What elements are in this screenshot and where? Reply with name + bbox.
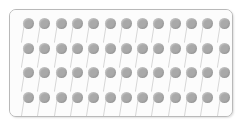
pin[interactable] bbox=[121, 43, 134, 69]
pin-head bbox=[170, 18, 181, 29]
pin-head bbox=[105, 18, 116, 29]
panel-caption: Array of 52 pins arranged in 4 rows of 1… bbox=[0, 0, 1, 1]
pin[interactable] bbox=[153, 67, 166, 93]
pin-head bbox=[105, 92, 116, 103]
pin-head bbox=[88, 18, 99, 29]
pin-head bbox=[170, 43, 181, 54]
pin[interactable] bbox=[186, 43, 199, 69]
pin[interactable] bbox=[121, 92, 134, 118]
pin-head bbox=[170, 92, 181, 103]
pin-head bbox=[137, 67, 148, 78]
pin-head bbox=[105, 67, 116, 78]
pin[interactable] bbox=[56, 67, 69, 93]
pin-head bbox=[121, 43, 132, 54]
pin[interactable] bbox=[88, 18, 101, 44]
pin[interactable] bbox=[23, 92, 36, 118]
pin-head bbox=[202, 67, 213, 78]
pin-head bbox=[56, 43, 67, 54]
pin-head bbox=[186, 18, 197, 29]
pin[interactable] bbox=[72, 92, 85, 118]
pin[interactable] bbox=[153, 18, 166, 44]
pin[interactable] bbox=[170, 67, 183, 93]
pin-head bbox=[23, 67, 34, 78]
pin[interactable] bbox=[219, 92, 232, 118]
pin[interactable] bbox=[153, 43, 166, 69]
pin-head bbox=[105, 43, 116, 54]
pin[interactable] bbox=[137, 18, 150, 44]
pin[interactable] bbox=[105, 18, 118, 44]
pin[interactable] bbox=[219, 18, 232, 44]
pin-head bbox=[186, 67, 197, 78]
pin[interactable] bbox=[186, 67, 199, 93]
pin-head bbox=[39, 18, 50, 29]
pin[interactable] bbox=[56, 18, 69, 44]
pin[interactable] bbox=[56, 43, 69, 69]
pin-head bbox=[186, 92, 197, 103]
pin[interactable] bbox=[186, 18, 199, 44]
pin-head bbox=[137, 92, 148, 103]
pin-head bbox=[153, 67, 164, 78]
pin-head bbox=[56, 92, 67, 103]
pin[interactable] bbox=[219, 43, 232, 69]
pin[interactable] bbox=[39, 18, 52, 44]
pin-head bbox=[219, 67, 230, 78]
pin[interactable] bbox=[88, 92, 101, 118]
pin[interactable] bbox=[39, 43, 52, 69]
pin[interactable] bbox=[137, 92, 150, 118]
pin[interactable] bbox=[23, 67, 36, 93]
pin-head bbox=[121, 92, 132, 103]
pin[interactable] bbox=[121, 18, 134, 44]
pin-head bbox=[72, 67, 83, 78]
screenshot-canvas: Array of 52 pins arranged in 4 rows of 1… bbox=[0, 0, 249, 127]
pin-head bbox=[72, 92, 83, 103]
pin-head bbox=[170, 67, 181, 78]
pin[interactable] bbox=[170, 18, 183, 44]
pin[interactable] bbox=[153, 92, 166, 118]
pin[interactable] bbox=[202, 67, 215, 93]
pin-head bbox=[56, 18, 67, 29]
pin[interactable] bbox=[72, 43, 85, 69]
pin[interactable] bbox=[88, 43, 101, 69]
pin-head bbox=[219, 18, 230, 29]
pin[interactable] bbox=[105, 92, 118, 118]
pin[interactable] bbox=[202, 92, 215, 118]
pin-head bbox=[56, 67, 67, 78]
pin-head bbox=[39, 67, 50, 78]
pin[interactable] bbox=[121, 67, 134, 93]
pin-head bbox=[23, 92, 34, 103]
pin-head bbox=[39, 92, 50, 103]
pin-head bbox=[88, 92, 99, 103]
pin-head bbox=[23, 18, 34, 29]
pin-head bbox=[88, 67, 99, 78]
pin-head bbox=[219, 92, 230, 103]
pin-head bbox=[121, 67, 132, 78]
pin-head bbox=[72, 43, 83, 54]
pin-head bbox=[219, 43, 230, 54]
pin[interactable] bbox=[202, 43, 215, 69]
pin-head bbox=[202, 92, 213, 103]
pin-array-panel[interactable] bbox=[9, 9, 233, 117]
pin[interactable] bbox=[105, 67, 118, 93]
pin[interactable] bbox=[105, 43, 118, 69]
pin[interactable] bbox=[219, 67, 232, 93]
pin[interactable] bbox=[72, 67, 85, 93]
pin-head bbox=[153, 92, 164, 103]
pin[interactable] bbox=[137, 67, 150, 93]
pin[interactable] bbox=[23, 18, 36, 44]
pin[interactable] bbox=[137, 43, 150, 69]
pin[interactable] bbox=[88, 67, 101, 93]
pin[interactable] bbox=[170, 43, 183, 69]
pin[interactable] bbox=[56, 92, 69, 118]
pin-head bbox=[39, 43, 50, 54]
pin-head bbox=[72, 18, 83, 29]
pin[interactable] bbox=[186, 92, 199, 118]
pin[interactable] bbox=[39, 92, 52, 118]
pin-head bbox=[121, 18, 132, 29]
pin-head bbox=[137, 18, 148, 29]
pin[interactable] bbox=[23, 43, 36, 69]
pin[interactable] bbox=[39, 67, 52, 93]
pin[interactable] bbox=[72, 18, 85, 44]
pin-head bbox=[202, 18, 213, 29]
pin[interactable] bbox=[170, 92, 183, 118]
pin[interactable] bbox=[202, 18, 215, 44]
